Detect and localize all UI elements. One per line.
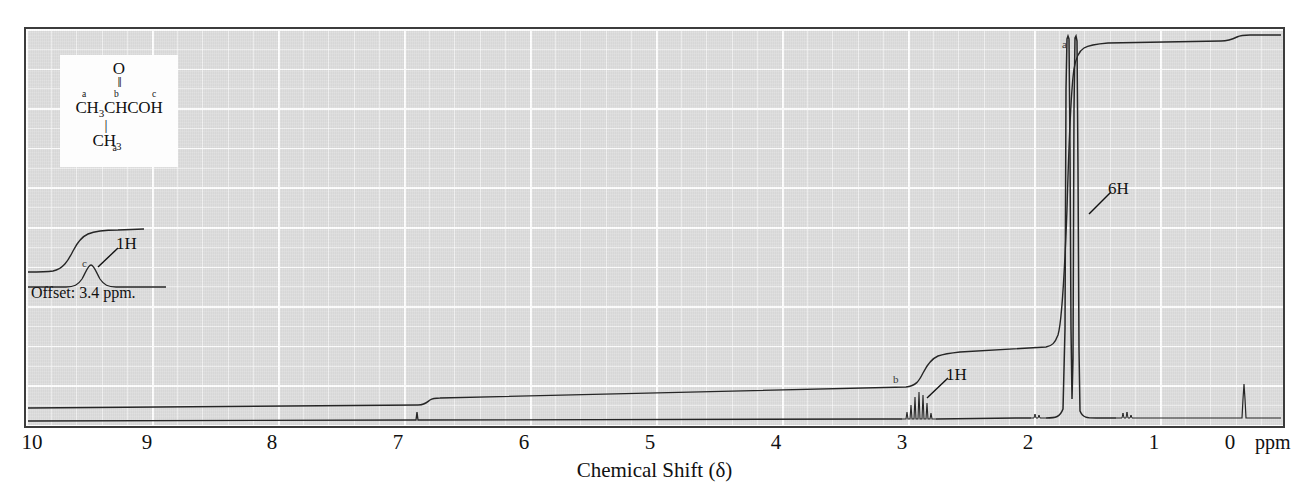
structure-main-chain: CH3CHCOH <box>75 99 162 119</box>
leader-line-1h-c <box>98 248 118 267</box>
integration-6h: 6H <box>1108 179 1129 199</box>
structure-chain-ch: CH <box>75 98 98 117</box>
spectrum-traces <box>26 29 1283 426</box>
tick-6: 6 <box>519 430 530 455</box>
leader-line-1h-b <box>927 378 948 398</box>
molecular-structure-inset: O ‖ a b c CH3CHCOH | CH3a <box>60 55 178 167</box>
axis-unit-label: ppm <box>1255 431 1291 454</box>
spectrum-plot-area: a b c 6H 1H 1H Offset: 3.4 ppm. <box>24 27 1285 428</box>
integration-curve <box>28 35 1281 408</box>
peak-label-c: c <box>82 257 87 269</box>
x-axis-title: Chemical Shift (δ) <box>0 458 1309 483</box>
structure-chain-rest: CHCOH <box>104 98 163 117</box>
peak-label-b: b <box>893 373 899 385</box>
tick-4: 4 <box>771 430 782 455</box>
structure-proton-labels: a b c <box>60 88 178 99</box>
structure-label-b: b <box>114 90 119 100</box>
tick-0: 0 <box>1225 430 1236 455</box>
tick-8: 8 <box>267 430 278 455</box>
integration-1h-b: 1H <box>946 365 967 385</box>
offset-note: Offset: 3.4 ppm. <box>31 284 136 302</box>
peak-label-a: a <box>1062 38 1067 50</box>
structure-label-c: c <box>152 90 156 100</box>
structure-branch-label-a: a <box>112 144 116 154</box>
tick-7: 7 <box>393 430 404 455</box>
double-bond-icon: ‖ <box>60 77 178 88</box>
tick-2: 2 <box>1023 430 1034 455</box>
tick-1: 1 <box>1149 430 1160 455</box>
tick-9: 9 <box>142 430 153 455</box>
structure-label-a: a <box>82 90 86 100</box>
tick-10: 10 <box>22 430 43 455</box>
tick-5: 5 <box>645 430 656 455</box>
integration-1h-c: 1H <box>116 234 137 254</box>
nmr-spectrum-figure: a b c 6H 1H 1H Offset: 3.4 ppm. O ‖ a b … <box>0 0 1309 494</box>
x-axis-tick-labels: 10 9 8 7 6 5 4 3 2 1 0 ppm <box>0 430 1309 458</box>
spectrum-trace <box>28 36 1281 421</box>
tick-3: 3 <box>897 430 908 455</box>
structure-branch-methyl: CH3a <box>92 132 121 152</box>
